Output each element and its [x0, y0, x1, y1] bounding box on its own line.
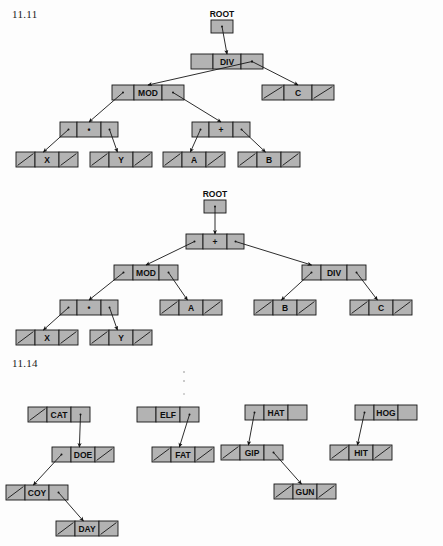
pointer-dot [235, 241, 237, 243]
pointer-dot [58, 492, 60, 494]
node-label-text: DOE [74, 450, 93, 460]
pointer-dot [123, 272, 125, 274]
page-speck [183, 393, 184, 394]
tree-edge [357, 273, 378, 301]
root-pointer-label: ROOT [210, 9, 235, 19]
tree-edge [89, 93, 123, 123]
pointer-dot [189, 414, 191, 416]
pointer-dot [109, 129, 111, 131]
node-label-text: • [88, 125, 91, 135]
node-label-text: + [219, 125, 224, 135]
node-label-text: DIV [327, 268, 342, 278]
pointer-dot [241, 129, 243, 131]
node-label-text: HIT [354, 448, 369, 458]
tree-edge [242, 130, 266, 153]
tree-node-gun: GUN [274, 484, 336, 499]
node-label-text: Y [118, 155, 124, 165]
nodes-layer: DIVMODC•+XYAB+MODDIV•ABCXYCATDOECOYDAYEL… [6, 54, 417, 536]
page-speck [183, 371, 185, 373]
page-speck [183, 380, 185, 382]
node-label-text: B [282, 303, 288, 313]
node-label-text: C [295, 88, 301, 98]
node-label-text: HOG [376, 408, 396, 418]
tree-edge [43, 308, 68, 331]
page-canvas: 11.11 11.14 DIVMODC•+XYAB+MODDIV•ABCXYCA… [0, 0, 443, 546]
node-label-text: B [266, 155, 272, 165]
pointer-dot [61, 454, 63, 456]
tree-node-a: A [160, 300, 222, 315]
tree-node-hit: HIT [330, 445, 392, 460]
node-label-text: A [191, 155, 197, 165]
tree-edge [274, 453, 302, 485]
node-label-text: COY [28, 488, 47, 498]
node-label-text: MOD [138, 88, 158, 98]
tree-edge [173, 93, 221, 123]
tree-edge [89, 273, 124, 301]
tree-edge [236, 242, 312, 266]
node-label-text: GUN [296, 487, 315, 497]
pointer-dot [68, 129, 70, 131]
pointer-dot [273, 452, 275, 454]
pointer-dot [168, 272, 170, 274]
tree-edge [43, 130, 68, 153]
pointer-dot [194, 241, 196, 243]
tree-edge [33, 455, 61, 486]
tree-node-c: C [262, 85, 334, 100]
node-label-text: + [213, 237, 218, 247]
node-label-text: X [44, 155, 50, 165]
tree-edge [146, 242, 195, 266]
node-label-text: CAT [51, 410, 69, 420]
node-label-text: ELF [160, 410, 176, 420]
tree-node-fat: FAT [152, 447, 214, 462]
pointer-dot [172, 92, 174, 94]
node-label-text: C [378, 303, 384, 313]
node-label-text: FAT [175, 450, 191, 460]
tree-node-a: A [163, 152, 225, 167]
binary-tree-diagrams: DIVMODC•+XYAB+MODDIV•ABCXYCATDOECOYDAYEL… [0, 0, 443, 546]
tree-edge [281, 273, 311, 301]
tree-edge [252, 62, 298, 86]
root-pointer-label: ROOT [203, 189, 228, 199]
node-label-text: A [188, 303, 194, 313]
pointer-dot [80, 414, 82, 416]
tree-node-b: B [238, 152, 300, 167]
pointer-dot [251, 61, 253, 63]
tree-node-x: X [16, 330, 78, 345]
node-label-text: X [44, 333, 50, 343]
pointer-dot [122, 92, 124, 94]
node-label-text: DIV [220, 57, 235, 67]
node-left-pointer-cell [137, 407, 156, 422]
tree-node-day: DAY [56, 521, 118, 536]
node-right-pointer-cell [398, 405, 417, 420]
tree-edge [59, 493, 84, 522]
node-label-text: • [88, 303, 91, 313]
tree-node-y: Y [90, 152, 152, 167]
pointer-dot [311, 272, 313, 274]
node-left-pointer-cell [191, 54, 213, 69]
pointer-dot [109, 307, 111, 309]
pointer-dot [356, 272, 358, 274]
node-label-text: DAY [78, 524, 95, 534]
node-label-text: MOD [136, 268, 156, 278]
pointer-dot [254, 412, 256, 414]
node-right-pointer-cell [288, 405, 307, 420]
node-label-text: HAT [268, 408, 286, 418]
tree-node-x: X [16, 152, 78, 167]
pointer-dot [200, 129, 202, 131]
roots-layer: ROOTROOT [203, 9, 235, 234]
tree-node-y: Y [90, 330, 152, 345]
node-label-text: GIP [245, 448, 260, 458]
tree-node-b: B [254, 300, 316, 315]
pointer-dot [68, 307, 70, 309]
node-label-text: Y [118, 333, 124, 343]
tree-node-c: C [350, 300, 412, 315]
pointer-dot [364, 412, 366, 414]
